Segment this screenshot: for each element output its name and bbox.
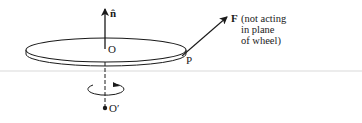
axis-point [103, 106, 107, 110]
axis-point-label: O′ [109, 102, 119, 114]
center-label: O [108, 43, 116, 55]
normal-vector-label: n̂ [110, 7, 116, 19]
force-note-line2: in plane [241, 24, 275, 35]
separator-line [0, 70, 362, 72]
force-note-line3: of wheel) [241, 35, 281, 47]
rotation-arrow-icon [88, 82, 124, 95]
force-arrow [182, 17, 227, 56]
wheel-disk [26, 38, 186, 66]
force-label: F [231, 12, 238, 24]
point-p-label: P [186, 54, 192, 66]
wheel-torque-diagram: n̂ O P F (not acting in plane of wheel) … [0, 0, 362, 123]
